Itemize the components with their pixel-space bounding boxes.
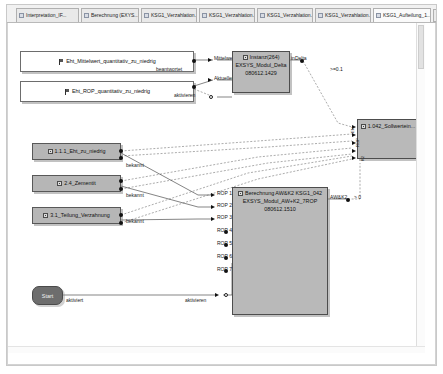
edge-label-aktiviert: aktiviert [66, 298, 83, 303]
flag-icon [64, 89, 70, 95]
port-label-rop-6: ROP 6 [217, 254, 232, 259]
port-fact1-out-a[interactable] [119, 149, 123, 153]
port-delta-activate[interactable] [209, 95, 213, 99]
node-berechnung-awk2[interactable]: Berechnung AW&K2 KSG1_042 EXSYS_Modul_AW… [232, 187, 328, 315]
node-label: Eht_ROP_quantitativ_zu_niedrig [72, 88, 150, 96]
port-sollwert-in-4[interactable] [352, 149, 356, 153]
tab-interpretation-if[interactable]: Interpretation_IF... [16, 8, 79, 22]
document-icon [84, 13, 89, 18]
node-fact-teilung-verzahnung[interactable]: 3.1_Teilung_Verzahnung [32, 207, 121, 224]
port-fact1-out-b[interactable] [119, 156, 123, 160]
port-label-aktueller: Aktueller [214, 76, 233, 81]
vertical-scrollbar-thumb[interactable] [418, 25, 424, 69]
fact-icon [57, 181, 62, 186]
module-icon [238, 191, 243, 196]
port-aktueller-marker[interactable] [208, 78, 212, 82]
node-label: 1.1.1_Eht_zu_niedrig [55, 148, 106, 156]
node-start[interactable]: Start [32, 286, 63, 305]
port-label-rop-2: ROP 2 [217, 203, 232, 208]
document-icon [202, 13, 207, 18]
side-port-label-3: K2 [360, 156, 365, 161]
node-title-row: Instanz(264) [243, 54, 280, 62]
tab-strip-controls[interactable]: » [433, 8, 436, 22]
port-eht-mittelwert-out[interactable] [192, 59, 196, 63]
app-root: Interpretation_IF... Berechnung (EXYS...… [0, 0, 443, 374]
edge-label-aktivieren-top: aktivieren [174, 93, 195, 98]
module-icon [361, 124, 366, 129]
port-label-rop-7: ROP 7 [217, 267, 232, 272]
node-module-name: EXSYS_Modul_AW+K2_7ROP [243, 198, 318, 206]
fact-icon [43, 213, 48, 218]
tab-ksg1-verzahlation-3[interactable]: KSG1_Verzahlation... [257, 8, 313, 22]
node-title: Berechnung AW&K2 KSG1_042 [245, 190, 322, 198]
tab-label: KSG1_Verzahlation... [209, 13, 255, 18]
document-icon [318, 13, 323, 18]
fact-icon [48, 149, 53, 154]
node-title-row: Berechnung AW&K2 KSG1_042 [238, 190, 322, 198]
tab-ksg1-verzahlation-1[interactable]: KSG1_Verzahlation... [141, 8, 197, 22]
edge-label-bekannt-3: bekannt [126, 219, 144, 224]
port-label-rop-3: ROP 3 [217, 215, 232, 220]
module-icon [243, 55, 248, 60]
document-icon [376, 13, 381, 18]
diagram-canvas-container[interactable]: Eht_Mittelwert_quantitativ_zu_niedrig Eh… [7, 23, 436, 365]
node-label: 2.4_Zementit [64, 180, 95, 188]
port-start-out[interactable] [215, 293, 219, 297]
tab-scroll-button[interactable] [433, 9, 436, 22]
edge-label-cond-awk2: > 0 [354, 195, 361, 200]
tab-label: Berechnung (EXYS... [91, 13, 139, 18]
node-module-name: EXSYS_Modul_Delta [235, 62, 286, 70]
port-fact2-out-b[interactable] [119, 187, 123, 191]
node-title-row: 1.042_Sollwertein... [361, 123, 415, 131]
port-indelta-out[interactable] [300, 59, 304, 63]
tab-label: KSG1_Verzahlation... [325, 13, 371, 18]
tab-label: Interpretation_IF... [26, 13, 66, 18]
tab-ksg1-verzahlation-2[interactable]: KSG1_Verzahlation... [199, 8, 255, 22]
port-label-indelta: inDelta [291, 56, 307, 61]
port-rop-1-marker[interactable] [211, 193, 215, 197]
node-label: Eht_Mittelwert_quantitativ_zu_niedrig [66, 58, 156, 66]
tab-ksg1-verzahlation-4[interactable]: KSG1_Verzahlation... [315, 8, 371, 22]
port-label-rop-1: ROP 1 [217, 191, 232, 196]
node-sollwerteinstellung[interactable]: 1.042_Sollwertein... [357, 119, 419, 159]
port-rop-2-marker[interactable] [211, 205, 215, 209]
port-fact3-out-b[interactable] [119, 221, 123, 225]
document-icon [19, 13, 24, 18]
diagram-canvas[interactable]: Eht_Mittelwert_quantitativ_zu_niedrig Eh… [8, 23, 425, 353]
port-sollwert-in-2[interactable] [352, 133, 356, 137]
edge-label-bekannt-2: bekannt [126, 193, 144, 198]
port-awk2-out[interactable] [346, 198, 350, 202]
tab-strip[interactable]: Interpretation_IF... Berechnung (EXYS...… [7, 5, 436, 23]
node-eht-rop[interactable]: Eht_ROP_quantitativ_zu_niedrig [20, 81, 194, 102]
document-icon [260, 13, 265, 18]
side-port-label-1: Eht [350, 127, 355, 133]
tab-label: KSG1_Aufteilung_1... [383, 13, 431, 18]
node-label: Start [42, 293, 53, 299]
tab-ksg1-aufteilung-1[interactable]: KSG1_Aufteilung_1... [373, 8, 431, 22]
port-mittelwert-marker[interactable] [208, 58, 212, 62]
node-fact-zementit[interactable]: 2.4_Zementit [32, 175, 121, 192]
tab-berechnung-exsys[interactable]: Berechnung (EXYS... [81, 8, 139, 22]
horizontal-scrollbar[interactable] [8, 346, 425, 353]
tab-label: KSG1_Verzahlation... [267, 13, 313, 18]
edge-label-bekannt-1: bekannt [126, 163, 144, 168]
port-sollwert-in-5[interactable] [352, 156, 356, 160]
node-label: 1.042_Sollwertein... [368, 123, 415, 131]
port-eht-rop-out[interactable] [192, 85, 196, 89]
port-rop-3-marker[interactable] [211, 217, 215, 221]
edge-label-beantwortet: beantwortet [156, 67, 182, 72]
flag-icon [58, 59, 64, 65]
port-awk2-activate[interactable] [224, 293, 228, 297]
port-fact3-out-a[interactable] [119, 213, 123, 217]
edge-label-cond-delta: >=0.1 [330, 67, 343, 72]
node-fact-eht-zu-niedrig[interactable]: 1.1.1_Eht_zu_niedrig [32, 143, 121, 160]
node-instanz-delta[interactable]: Instanz(264) EXSYS_Modul_Delta 080612.14… [232, 51, 290, 93]
port-label-rop-4: ROP 4 [217, 228, 232, 233]
node-timestamp: 080612.1510 [264, 206, 295, 214]
node-timestamp: 080612.1429 [245, 70, 276, 78]
port-fact2-out-a[interactable] [119, 179, 123, 183]
vertical-scrollbar[interactable] [416, 23, 425, 353]
tab-label: KSG1_Verzahlation... [151, 13, 197, 18]
port-label-awk2: AW&K2 [330, 195, 347, 200]
node-title: Instanz(264) [250, 54, 280, 62]
